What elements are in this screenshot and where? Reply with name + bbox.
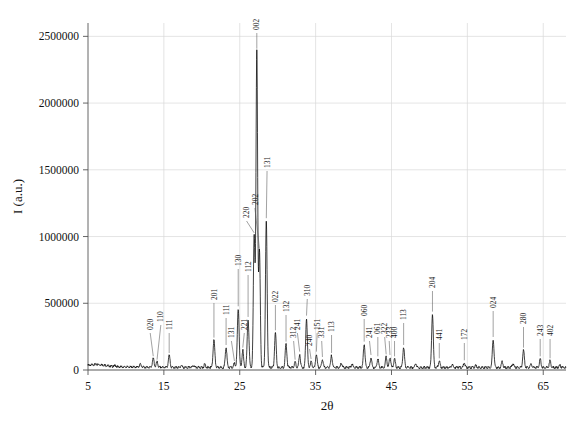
peak-index-label: 220 bbox=[242, 207, 251, 218]
y-tick-label: 500000 bbox=[45, 297, 80, 309]
peak-index-label: 002 bbox=[252, 19, 261, 30]
x-axis-title: 2θ bbox=[321, 398, 334, 413]
peak-index-label: 221 bbox=[240, 319, 249, 330]
peak-index-label: 241 bbox=[293, 319, 302, 330]
peak-index-label: 441 bbox=[435, 329, 444, 340]
peak-index-label: 113 bbox=[327, 321, 336, 332]
y-tick-label: 1500000 bbox=[39, 164, 80, 176]
plot-area-wrapper: 0500000100000015000002000000250000051525… bbox=[0, 0, 575, 423]
xrd-diffractogram-svg: 0500000100000015000002000000250000051525… bbox=[0, 0, 575, 423]
x-tick-label: 15 bbox=[158, 380, 170, 392]
peak-index-label: 243 bbox=[536, 325, 545, 336]
y-tick-label: 0 bbox=[73, 364, 79, 376]
peak-index-label: 204 bbox=[428, 277, 437, 288]
peak-index-label: 020 bbox=[146, 319, 155, 330]
x-tick-label: 5 bbox=[85, 380, 91, 392]
peak-index-label: 132 bbox=[282, 301, 291, 312]
y-tick-label: 2500000 bbox=[39, 30, 80, 42]
xrd-chart-figure: 0500000100000015000002000000250000051525… bbox=[0, 0, 575, 423]
x-tick-label: 45 bbox=[386, 380, 398, 392]
peak-index-label: 131 bbox=[263, 157, 272, 168]
peak-index-label: 112 bbox=[244, 261, 253, 272]
peak-index-label: 201 bbox=[210, 289, 219, 300]
peak-index-label: 060 bbox=[360, 305, 369, 316]
x-tick-label: 65 bbox=[537, 380, 549, 392]
peak-index-label: 331 bbox=[317, 327, 326, 338]
peak-index-label: 402 bbox=[546, 325, 555, 336]
y-axis-title: I (a.u.) bbox=[10, 179, 25, 214]
peak-index-label: 202 bbox=[251, 194, 260, 205]
peak-index-label: 310 bbox=[303, 285, 312, 296]
peak-index-label: 022 bbox=[271, 291, 280, 302]
peak-index-label: 111 bbox=[165, 319, 174, 330]
x-tick-label: 25 bbox=[234, 380, 246, 392]
peak-index-label: 113 bbox=[399, 309, 408, 320]
x-tick-label: 35 bbox=[310, 380, 322, 392]
peak-index-label: 172 bbox=[460, 329, 469, 340]
y-tick-label: 2000000 bbox=[39, 97, 80, 109]
peak-index-label: 130 bbox=[234, 255, 243, 266]
y-tick-label: 1000000 bbox=[39, 231, 80, 243]
peak-index-label: 131 bbox=[227, 327, 236, 338]
x-tick-label: 55 bbox=[462, 380, 474, 392]
peak-index-label: 024 bbox=[489, 297, 498, 308]
peak-index-label: 111 bbox=[222, 304, 231, 315]
peak-index-label: 400 bbox=[390, 327, 399, 338]
peak-index-label: 240 bbox=[305, 335, 314, 346]
peak-index-label: 280 bbox=[519, 313, 528, 324]
